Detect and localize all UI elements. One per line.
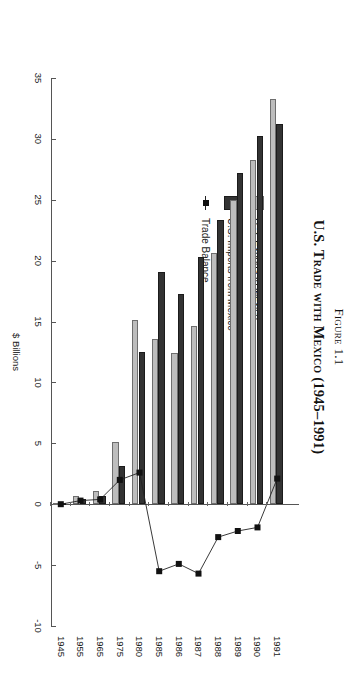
category-tick [148,502,149,506]
value-tick [51,626,56,627]
category-tick [50,502,51,506]
balance-polyline [61,473,277,574]
balance-marker [78,498,84,504]
category-tick [247,502,248,506]
category-label: 1980 [135,636,146,657]
balance-marker [97,496,103,502]
figure-title-block: Figure 1.1 U.S. Trade with Mexico (1945–… [310,0,347,674]
value-tick-label: 10 [33,377,44,388]
balance-marker [274,476,280,482]
category-label: 1975 [115,636,126,657]
category-tick [188,502,189,506]
figure-canvas: Figure 1.1 U.S. Trade with Mexico (1945–… [0,0,361,674]
category-label: 1987 [194,636,205,657]
category-label: 1965 [95,636,106,657]
category-label: 1988 [213,636,224,657]
category-tick [207,502,208,506]
category-label: 1986 [174,636,185,657]
value-tick-label: 15 [33,316,44,327]
value-axis-title: $ Billions [11,78,22,626]
category-tick [129,502,130,506]
figure-number: Figure 1.1 [331,0,347,674]
category-label: 1985 [154,636,165,657]
value-tick-label: -5 [33,561,44,569]
balance-marker [156,568,162,574]
category-label: 1989 [233,636,244,657]
value-tick-label: 25 [33,194,44,205]
category-tick [227,502,228,506]
category-label: 1945 [56,636,67,657]
balance-marker [196,571,202,577]
value-tick-label: 35 [33,73,44,84]
rotated-figure: Figure 1.1 U.S. Trade with Mexico (1945–… [0,0,361,674]
category-label: 1990 [253,636,264,657]
balance-marker [137,470,143,476]
value-tick-label: 5 [33,441,44,446]
value-tick-label: 20 [33,255,44,266]
category-tick [168,502,169,506]
balance-marker [58,501,64,507]
balance-marker [255,524,261,530]
category-label: 1991 [272,636,283,657]
value-tick-label: 0 [33,502,44,507]
category-tick [70,502,71,506]
plot-area: 35302520151050-5-10 19911990198919881987… [51,78,287,626]
balance-marker [176,561,182,567]
balance-marker [117,477,123,483]
category-tick [109,502,110,506]
category-label: 1955 [76,636,87,657]
balance-marker [215,534,221,540]
trade-balance-line [51,78,287,626]
category-tick [89,502,90,506]
category-tick [266,502,267,506]
page-title: U.S. Trade with Mexico (1945–1991) [310,0,328,674]
value-tick-label: 30 [33,134,44,145]
value-tick-label: -10 [33,619,44,633]
balance-marker [235,528,241,534]
